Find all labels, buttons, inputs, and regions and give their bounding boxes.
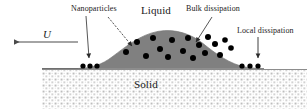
surface-line [42, 68, 82, 69]
right-contact-line-particles [239, 63, 260, 68]
solid-label: Solid [134, 79, 158, 90]
bulk-dissipation-label: Bulk dissipation [186, 5, 240, 13]
nanofluid-droplet-diagram: Nanoparticles Liquid Bulk dissipation Lo… [0, 0, 307, 109]
diagram-canvas [0, 0, 307, 109]
local-dissipation-label: Local dissipation [237, 27, 294, 35]
solid-substrate [42, 69, 307, 109]
nanoparticles-label: Nanoparticles [71, 5, 117, 13]
nanoparticles-leader-contactline [86, 16, 89, 58]
nanoparticles-leader-bulk [108, 17, 132, 46]
liquid-label: Liquid [141, 5, 171, 16]
liquid-droplet [78, 31, 264, 69]
velocity-label: U [43, 29, 51, 40]
left-contact-line-particles [80, 63, 99, 68]
